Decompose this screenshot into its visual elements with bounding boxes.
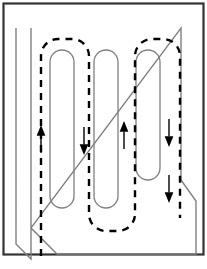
coverage-path-diagram: [0, 0, 207, 269]
figure-container: [0, 0, 207, 269]
